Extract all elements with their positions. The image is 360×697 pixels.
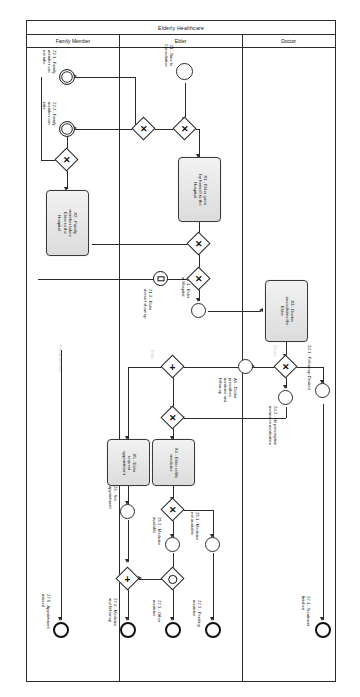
arrow-z41-z71	[320, 617, 324, 621]
event-z21-label: Z2.1 - Familymember cannot take	[41, 50, 56, 74]
flow-g6-to-x5	[128, 367, 129, 439]
event-a1-label: A1 - Doctorprescribesmedicine andfollow-…	[217, 378, 237, 402]
event-z12-label: Z1.2 - Elderdoesn't show up	[142, 289, 152, 318]
arrow-g7-z42	[283, 385, 287, 389]
flow-g11-to-g10	[139, 579, 163, 580]
event-z71-label: Z7.1 - Treatmentfinished	[300, 596, 310, 626]
event-z72-pending-medicine[interactable]	[205, 622, 221, 638]
event-z42-label: Z4.2 - No prescriptionmeans no medicatio…	[267, 406, 277, 445]
event-z74-label: Z7.4 - Medicineand follow-up	[107, 598, 117, 626]
gateway-g4-mark: ✕	[195, 239, 203, 248]
event-z51-medicine-not-available[interactable]	[205, 537, 220, 552]
gateway-g7-mark: ✕	[282, 362, 290, 371]
task-x3-doctor-auscultates[interactable]: X3 - Doctorauscultates theElder	[265, 280, 308, 342]
pool-title: Elderly Healthcare	[27, 21, 335, 35]
flow-g1-down-x1	[199, 129, 200, 157]
flow-z11-to-x3	[208, 311, 261, 312]
bpmn-canvas: Elderly Healthcare Family Member Elder D…	[0, 0, 360, 697]
flow-a1-to-g6	[181, 367, 238, 368]
arrow-g10-z74	[125, 617, 129, 621]
event-z75-label: Z7.5 - Appointmentmissed	[40, 594, 50, 629]
gateway-g9-mark: ✕	[169, 505, 177, 514]
task-x5-label: X5 - Elderrequestappointment	[121, 451, 137, 475]
flow-z1-to-g1	[185, 83, 186, 119]
lane-divider-2	[242, 34, 243, 681]
flow-z42-down	[286, 407, 287, 418]
task-x1-elder-goes-by-himself[interactable]: X1 - Elder goesby himself to theHospital	[178, 157, 221, 222]
flow-z21-riser	[135, 77, 136, 129]
gateway-g10-mark: +	[125, 574, 131, 583]
gateway-g8-mark: ✕	[169, 413, 177, 422]
flow-z51-to-z72	[213, 553, 214, 620]
arrow-z51-z72	[210, 617, 214, 621]
event-z12-elder-doesnt-show-up[interactable]	[153, 271, 168, 286]
flow-g10-to-z74	[128, 587, 129, 620]
task-x1-label: X1 - Elder goesby himself to theHospital	[192, 174, 208, 205]
event-z1-label: Z1 - Time toConsultation	[163, 44, 173, 67]
task-x4-label: X4 - Elder refillsmedicine	[168, 447, 178, 477]
flow-to-z21	[74, 77, 135, 78]
event-z73-label: Z7.3 - Othermedicine	[151, 600, 161, 622]
arrow-z11-x3	[259, 308, 263, 312]
lane-header-family-member: Family Member	[27, 34, 119, 48]
arrow-g11-z73	[170, 617, 174, 621]
event-z73-other-medicine[interactable]	[165, 622, 181, 638]
task-x3-label: X3 - Doctorauscultates theElder	[279, 297, 295, 326]
event-z41-follow-up-desired[interactable]	[315, 383, 330, 398]
event-z52-medicine-available[interactable]	[165, 537, 180, 552]
event-z71-treatment-finished[interactable]	[315, 622, 331, 638]
flow-g11-to-z73	[173, 587, 174, 620]
lane-header-elder: Elder	[119, 34, 242, 48]
flow-z6-to-g10	[128, 520, 129, 562]
event-z72-label: Z7.2 - Pendingmedicine	[191, 600, 201, 627]
flow-left-margin-down	[61, 350, 62, 620]
event-z74-medicine-and-follow-up[interactable]	[120, 622, 136, 638]
event-z22-family-member-can-take[interactable]	[59, 121, 75, 137]
event-a1-doctor-prescribes[interactable]	[238, 359, 253, 374]
flow-g6-to-g8	[173, 375, 174, 409]
gateway-g3-mark: ✕	[63, 155, 71, 164]
lane-divider-1	[119, 34, 120, 681]
lane-header-doctor: Doctor	[242, 34, 335, 48]
flow-z41-to-z71	[323, 404, 324, 620]
task-x4-elder-refills-medicine[interactable]: X4 - Elder refillsmedicine	[152, 439, 195, 486]
gateway-g2-mark: ✕	[140, 124, 148, 133]
gateway-g1-mark: ✕	[181, 124, 189, 133]
event-z52-label: Z5.2 - Medicineavailable	[151, 517, 161, 545]
event-z1-time-to-consultation[interactable]	[176, 63, 193, 80]
flow-g9-to-z51	[213, 510, 214, 537]
flow-g6-left	[128, 367, 164, 368]
event-z6-label: Z6 - Setappointment	[107, 486, 117, 509]
flow-g7-to-a1	[252, 367, 276, 368]
arrow-to-z75	[58, 617, 62, 621]
flow-g1-to-g2	[152, 129, 175, 130]
event-z22-label: Z2.2 - Familymember cantake	[41, 102, 56, 126]
event-z21-family-member-can-not-take[interactable]	[59, 69, 75, 85]
task-x2-family-member-takes-elder[interactable]: X2 - Familymember takesElder to theHospi…	[46, 190, 89, 256]
event-z42-no-prescription[interactable]	[278, 390, 293, 405]
flow-x2-to-g4	[92, 244, 190, 245]
event-z51-label: Z5.1 - Medicinenot available	[189, 512, 199, 540]
event-z6-set-appointment[interactable]	[120, 504, 135, 519]
flow-g2-to-z22	[74, 129, 134, 130]
task-x2-label: X2 - Familymember takesElder to theHospi…	[57, 209, 78, 236]
task-x5-elder-request-appointment[interactable]: X5 - Elderrequestappointment	[107, 439, 150, 486]
lane-ghost-elder: Elder	[150, 350, 155, 359]
gateway-g6-mark: +	[170, 362, 176, 371]
event-z75-appointment-missed[interactable]	[53, 622, 69, 638]
arrow-z6-g10	[125, 559, 129, 563]
flow-z12-loop-h	[38, 279, 153, 280]
event-z41-label: Z4.1 - Follow-up Desired	[306, 345, 311, 390]
gateway-g5-mark: ✕	[195, 274, 203, 283]
lane-ghost-doctor: Doctor	[273, 345, 278, 357]
event-z11-elder-at-hospital[interactable]	[191, 303, 206, 318]
arrow-g5-z11	[196, 298, 200, 302]
